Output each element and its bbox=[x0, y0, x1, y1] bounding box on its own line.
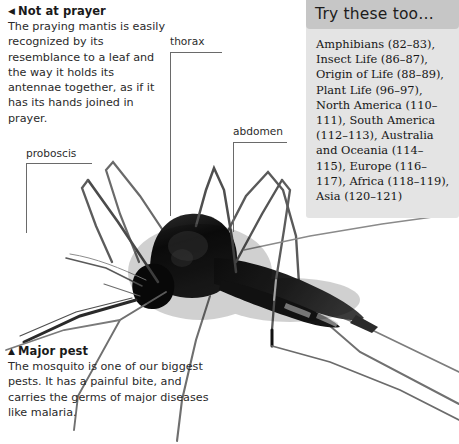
caption-body-major-pest: The mosquito is one of our biggest pests… bbox=[8, 359, 213, 420]
caption-heading-text: Major pest bbox=[18, 344, 88, 358]
label-proboscis: proboscis bbox=[26, 147, 76, 159]
caption-body-not-at-prayer: The praying mantis is easily recognized … bbox=[8, 19, 168, 126]
triangle-up-icon: ▲ bbox=[8, 346, 15, 356]
try-these-too-header: Try these too… bbox=[306, 0, 459, 29]
triangle-left-icon: ◀ bbox=[8, 6, 15, 16]
label-thorax: thorax bbox=[170, 35, 204, 47]
page-root: proboscis thorax abdomen ◀Not at prayer … bbox=[0, 0, 459, 444]
try-these-too-title: Try these too… bbox=[315, 5, 450, 23]
label-abdomen: abdomen bbox=[233, 125, 283, 137]
caption-heading-not-at-prayer: ◀Not at prayer bbox=[8, 4, 168, 18]
mosquito-proboscis-and-antennae bbox=[20, 254, 146, 342]
try-these-too-entries: Amphibians (82–83), Insect Life (86–87),… bbox=[306, 29, 459, 218]
try-these-too-panel: Try these too… Amphibians (82–83), Insec… bbox=[306, 0, 459, 218]
caption-heading-text: Not at prayer bbox=[18, 4, 106, 18]
photo-tonal-wash bbox=[128, 224, 360, 322]
caption-heading-major-pest: ▲Major pest bbox=[8, 344, 213, 358]
caption-not-at-prayer: ◀Not at prayer The praying mantis is eas… bbox=[8, 4, 168, 126]
caption-major-pest: ▲Major pest The mosquito is one of our b… bbox=[8, 344, 213, 420]
